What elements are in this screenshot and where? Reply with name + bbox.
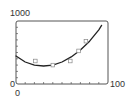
x-axis-min-label: 0 [15, 89, 20, 98]
plot-frame [16, 21, 108, 84]
data-point-marker [51, 63, 55, 67]
data-point-marker [34, 59, 38, 63]
x-axis-max-label: 100 [110, 80, 125, 89]
y-axis-max-label: 1000 [10, 9, 30, 18]
fitted-curve [16, 25, 102, 66]
data-point-marker [84, 39, 88, 43]
data-point-marker [68, 59, 72, 63]
data-point-marker [77, 49, 81, 53]
